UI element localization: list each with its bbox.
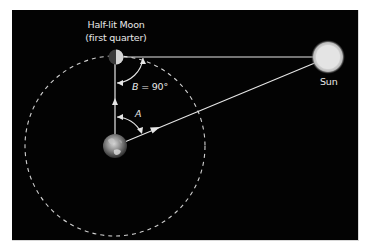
angle-b-variable: B <box>132 81 138 92</box>
earth-icon <box>103 134 127 158</box>
moon-title-label: Half-lit Moon <box>80 19 152 30</box>
figure: Half-lit Moon (first quarter) Sun B = 90… <box>0 0 369 248</box>
earth-moon-arrow-icon <box>112 98 118 105</box>
angle-a-arrow-left-icon <box>117 114 123 120</box>
diagram-svg <box>0 0 369 248</box>
moon-subtitle-label: (first quarter) <box>76 32 156 43</box>
earth-sun-line <box>115 60 322 146</box>
angle-b-arrow-top-icon <box>140 58 146 64</box>
angle-b-label: B = 90° <box>132 81 168 92</box>
sun-label: Sun <box>320 76 337 87</box>
sun-icon <box>311 40 345 74</box>
angle-a-arc <box>117 117 141 132</box>
angle-a-label: A <box>135 108 141 119</box>
half-moon-icon <box>109 50 124 65</box>
angle-b-value: = 90° <box>141 81 168 92</box>
earth-sun-arrow-icon <box>150 127 160 134</box>
angle-b-arrow-left-icon <box>117 80 123 86</box>
